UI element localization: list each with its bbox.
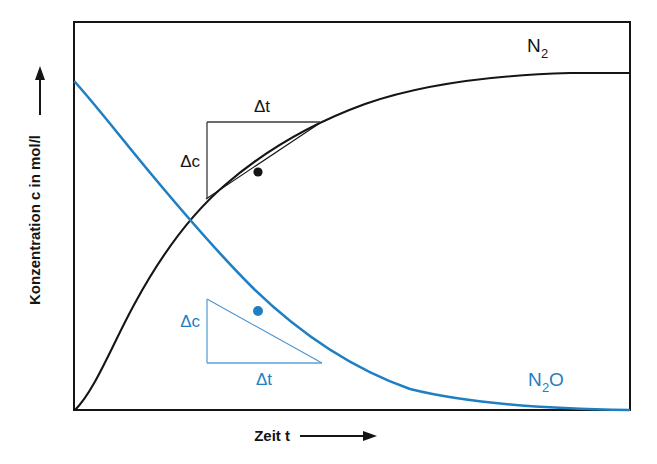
- series-label-n2o-oxygen: O: [549, 369, 564, 390]
- kinetics-diagram: Δt Δc Δt Δc N 2 N 2 O Konzentration c in…: [0, 0, 657, 464]
- delta-c-label-n2: Δc: [180, 152, 200, 171]
- delta-t-label-n2: Δt: [254, 97, 270, 116]
- x-axis-group: Zeit t: [254, 427, 377, 444]
- delta-t-label-n2o: Δt: [256, 370, 272, 389]
- x-axis-label: Zeit t: [254, 427, 290, 444]
- series-label-n2-main: N: [527, 35, 541, 56]
- chart-canvas: Δt Δc Δt Δc N 2 N 2 O Konzentration c in…: [0, 0, 657, 464]
- plot-frame: [74, 22, 630, 410]
- tangent-point-n2o: [253, 306, 263, 316]
- y-axis-label: Konzentration c in mol/l: [26, 135, 43, 305]
- arrow-right-icon: [363, 431, 377, 441]
- tangent-point-n2: [253, 167, 262, 176]
- y-axis-group: Konzentration c in mol/l: [26, 66, 45, 305]
- series-label-n2-subscript: 2: [541, 46, 548, 61]
- arrow-up-icon: [35, 66, 45, 80]
- series-label-n2o-main: N: [528, 369, 542, 390]
- delta-c-label-n2o: Δc: [180, 312, 200, 331]
